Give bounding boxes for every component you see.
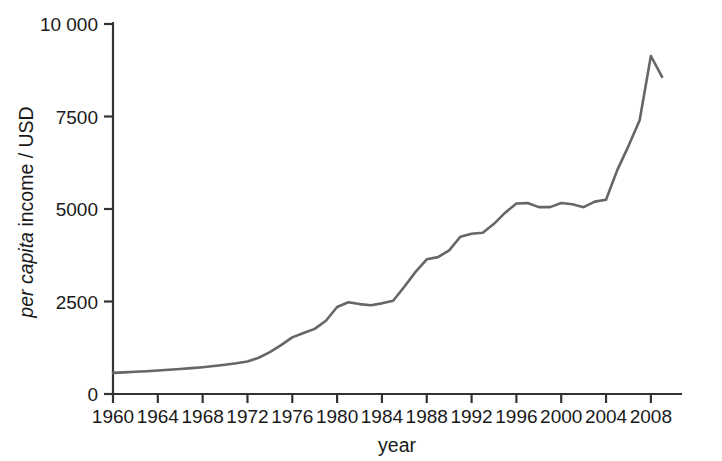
x-axis-tick-label: 1960 (92, 406, 134, 427)
y-axis-title: per capita income / USD (15, 106, 37, 318)
x-axis-tick-label: 1976 (271, 406, 313, 427)
line-chart-svg: 025005000750010 000 19601964196819721976… (0, 0, 722, 461)
x-axis-tick-label: 1996 (495, 406, 537, 427)
y-axis-tick-label: 0 (87, 384, 98, 405)
y-axis-tick-label: 2500 (56, 292, 98, 313)
x-axis-title: year (378, 434, 416, 456)
x-axis-tick-label: 1968 (182, 406, 224, 427)
y-axis-tick-label: 5000 (56, 199, 98, 220)
x-axis-tick-label: 1964 (137, 406, 180, 427)
chart-container: 025005000750010 000 19601964196819721976… (0, 0, 722, 461)
y-axis-ticks: 025005000750010 000 (40, 14, 113, 405)
x-axis-tick-label: 2004 (585, 406, 628, 427)
x-axis-tick-label: 1988 (406, 406, 448, 427)
x-axis-tick-label: 1980 (316, 406, 358, 427)
y-axis-tick-label: 7500 (56, 107, 98, 128)
x-axis-tick-label: 2000 (540, 406, 582, 427)
x-axis-tick-label: 2008 (630, 406, 672, 427)
data-line (113, 56, 662, 373)
data-series-group (113, 56, 662, 373)
y-axis-tick-label: 10 000 (40, 14, 98, 35)
x-axis-tick-label: 1972 (226, 406, 268, 427)
x-axis-ticks: 1960196419681972197619801984198819921996… (92, 394, 672, 427)
x-axis-tick-label: 1984 (361, 406, 404, 427)
x-axis-tick-label: 1992 (450, 406, 492, 427)
